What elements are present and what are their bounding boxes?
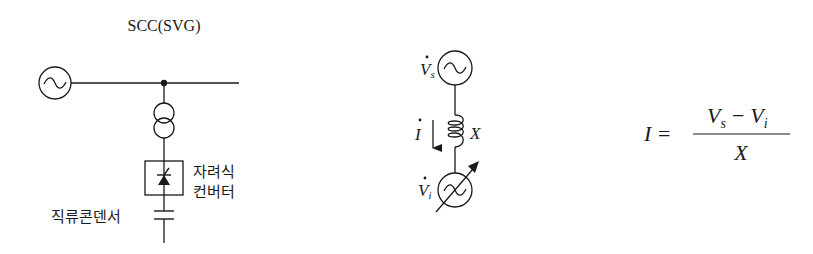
dc-capacitor-icon xyxy=(154,211,174,219)
current-symbol: I xyxy=(414,125,422,144)
formula-equals: = xyxy=(658,121,670,146)
vs-subscript: s xyxy=(430,68,434,80)
transformer-icon xyxy=(154,103,174,138)
capacitor-label: 직류콘덴서 xyxy=(51,208,121,226)
formula-denominator: X xyxy=(733,140,749,165)
formula-numerator: Vs−Vi xyxy=(707,103,768,131)
variable-ac-source-icon xyxy=(436,161,479,212)
reactance-symbol: X xyxy=(469,124,481,143)
phasor-dot-icon xyxy=(426,56,429,59)
ac-source-icon xyxy=(438,51,472,85)
vi-subscript: i xyxy=(428,189,431,201)
ac-source-icon xyxy=(39,67,71,99)
svg-text:Vs: Vs xyxy=(420,60,435,80)
converter-label-line2: 컨버터 xyxy=(193,183,235,201)
scc-diagram: SCC(SVG) 자려식 컨버터 xyxy=(39,17,239,243)
converter-icon xyxy=(145,161,183,195)
current-formula: I = Vs−Vi X xyxy=(643,103,790,165)
equivalent-circuit: Vs I X Vi xyxy=(414,51,481,212)
scc-title: SCC(SVG) xyxy=(128,17,201,35)
converter-label-line1: 자려식 xyxy=(193,163,235,181)
formula-lhs: I xyxy=(643,121,653,146)
diagram-canvas: SCC(SVG) 자려식 컨버터 xyxy=(0,0,813,254)
svg-text:Vi: Vi xyxy=(418,181,431,201)
inductor-icon xyxy=(448,115,463,147)
